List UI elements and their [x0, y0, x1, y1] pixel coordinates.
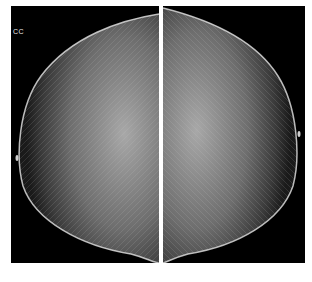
breast-tissue-left: [11, 6, 159, 263]
view-label: CC: [13, 28, 24, 35]
mammogram-right-panel: [163, 6, 305, 263]
caption-area: [0, 268, 312, 280]
breast-tissue-right: [163, 6, 305, 263]
mammogram-left-panel: CC: [11, 6, 159, 263]
